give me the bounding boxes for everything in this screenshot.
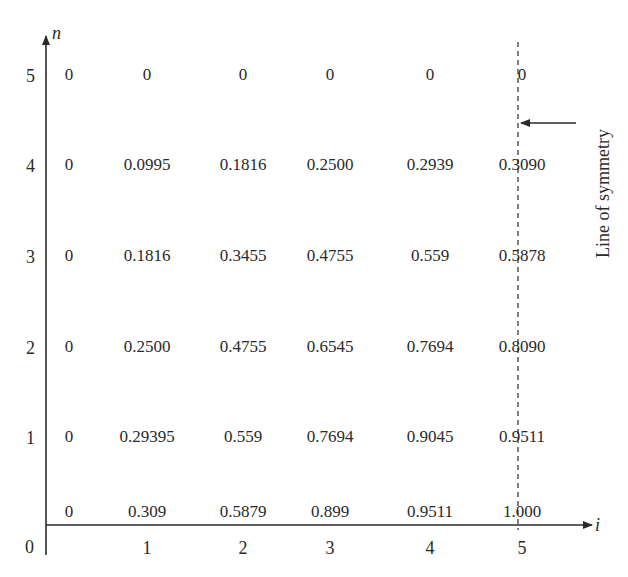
- grid-value: 0: [65, 502, 74, 521]
- n-tick-label: 4: [26, 156, 35, 176]
- grid-value: 0.2500: [307, 155, 354, 174]
- grid-value: 0.6545: [307, 337, 354, 356]
- grid-value: 0: [518, 65, 527, 84]
- grid-value: 0.559: [224, 427, 262, 446]
- grid-value: 0.7694: [407, 337, 454, 356]
- grid-value: 0.899: [311, 502, 349, 521]
- grid-value: 0: [65, 246, 74, 265]
- grid-value: 0: [239, 65, 248, 84]
- i-tick-label: 4: [426, 538, 435, 558]
- i-tick-label: 2: [239, 538, 248, 558]
- n-tick-label: 2: [26, 338, 35, 358]
- grid-value: 0.2500: [124, 337, 171, 356]
- grid-diagram: n i 0 Line of symmetry 12345 12345 00000…: [0, 0, 628, 577]
- grid-value: 0: [65, 427, 74, 446]
- grid-value: 0.3455: [220, 246, 267, 265]
- grid-value: 0: [65, 337, 74, 356]
- n-tick-label: 3: [26, 247, 35, 267]
- grid-value: 0.5879: [220, 502, 267, 521]
- i-tick-label: 5: [518, 538, 527, 558]
- origin-label: 0: [25, 537, 34, 557]
- grid-value: 0.559: [411, 246, 449, 265]
- grid-value: 0: [65, 65, 74, 84]
- grid-value: 0.9511: [499, 427, 545, 446]
- n-axis-label: n: [52, 23, 61, 43]
- grid-value: 0: [143, 65, 152, 84]
- grid-value: 0.0995: [124, 155, 171, 174]
- grid-value: 0: [65, 155, 74, 174]
- grid-value: 0.7694: [307, 427, 354, 446]
- grid-value: 0.4755: [220, 337, 267, 356]
- n-tick-label: 1: [26, 428, 35, 448]
- grid-value: 0.29395: [119, 427, 174, 446]
- grid-value: 0.4755: [307, 246, 354, 265]
- grid-value: 0.1816: [124, 246, 171, 265]
- grid-value: 0: [326, 65, 335, 84]
- i-tick-label: 1: [143, 538, 152, 558]
- grid-value: 0.309: [128, 502, 166, 521]
- grid-value: 0.3090: [499, 155, 546, 174]
- grid-value: 0.8090: [499, 337, 546, 356]
- n-tick-label: 5: [26, 66, 35, 86]
- grid-value: 0.5878: [499, 246, 546, 265]
- i-axis-label: i: [595, 515, 600, 535]
- grid-value: 0.2939: [407, 155, 454, 174]
- i-tick-label: 3: [326, 538, 335, 558]
- grid-value: 0: [426, 65, 435, 84]
- symmetry-annotation: Line of symmetry: [593, 129, 613, 258]
- grid-value: 0.9511: [407, 502, 453, 521]
- grid-value: 0.9045: [407, 427, 454, 446]
- grid-value: 0.1816: [220, 155, 267, 174]
- grid-value: 1.000: [503, 502, 541, 521]
